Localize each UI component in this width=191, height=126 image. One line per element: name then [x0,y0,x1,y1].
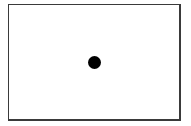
center-dot [88,56,101,69]
